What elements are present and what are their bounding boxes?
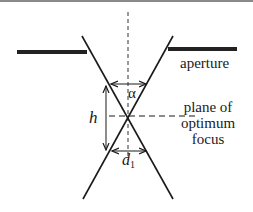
focus-plane-label-line2: optimum [172, 115, 244, 131]
aperture-left-bar [17, 50, 87, 54]
diagram-canvas: aperture plane of optimum focus h α d1 [0, 0, 253, 212]
focus-plane-label: plane of optimum focus [172, 99, 244, 147]
diameter-label: d1 [122, 152, 135, 170]
focus-plane-label-line3: focus [172, 131, 244, 147]
height-label: h [89, 109, 98, 126]
aperture-right-bar [168, 47, 237, 51]
angle-label: α [128, 86, 136, 101]
aperture-label: aperture [180, 56, 229, 71]
diameter-subscript: 1 [130, 159, 135, 170]
diameter-symbol: d [122, 151, 130, 168]
focus-plane-label-line1: plane of [172, 99, 244, 115]
